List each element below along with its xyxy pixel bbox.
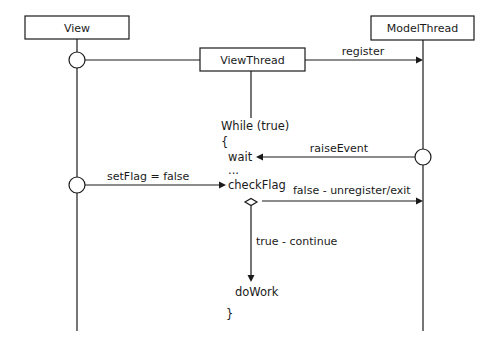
participant-modelthread-label: ModelThread — [387, 22, 459, 35]
decision-diamond-icon — [245, 199, 257, 206]
view-setflag-circle — [69, 177, 85, 193]
sequence-diagram: View ModelThread ViewThread register Whi… — [0, 0, 497, 347]
code-close-brace: } — [226, 307, 233, 321]
register-label: register — [342, 45, 385, 58]
true-branch-label: true - continue — [256, 235, 338, 248]
set-flag-label: setFlag = false — [107, 170, 190, 183]
code-open-brace: { — [221, 135, 228, 149]
set-flag-message: setFlag = false — [69, 170, 226, 193]
code-wait: wait — [228, 150, 253, 164]
code-dowork: doWork — [235, 285, 279, 299]
arrowhead-icon — [219, 182, 226, 189]
participant-view-label: View — [64, 22, 90, 35]
register-message: register — [305, 45, 423, 64]
code-while: While (true) — [221, 119, 289, 133]
raise-event-message: raiseEvent — [256, 142, 431, 165]
view-activation-circle — [69, 52, 85, 68]
arrowhead-icon — [256, 154, 263, 161]
false-branch-label: false - unregister/exit — [293, 184, 411, 197]
code-ellipsis: ... — [228, 163, 239, 177]
modelthread-activation-circle — [415, 149, 431, 165]
raise-event-label: raiseEvent — [310, 142, 369, 155]
participant-viewthread: ViewThread — [200, 48, 305, 71]
arrowhead-icon — [416, 57, 423, 64]
arrowhead-icon — [416, 198, 423, 205]
code-checkflag: checkFlag — [228, 178, 286, 192]
arrowhead-icon — [248, 275, 255, 282]
true-branch-message: true - continue — [248, 206, 338, 282]
participant-modelthread: ModelThread — [371, 16, 474, 40]
false-branch-message: false - unregister/exit — [262, 184, 423, 205]
participant-view: View — [25, 16, 129, 39]
participant-viewthread-label: ViewThread — [220, 54, 285, 67]
